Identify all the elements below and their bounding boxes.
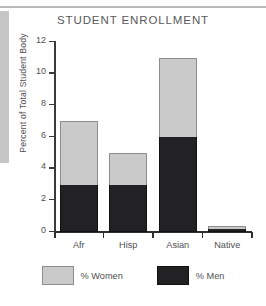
bar-segment-women bbox=[159, 58, 197, 137]
bar-hisp bbox=[109, 153, 147, 232]
legend-entry-women: % Women bbox=[42, 266, 123, 285]
y-axis-tick: 4 bbox=[49, 167, 54, 168]
x-axis-tick bbox=[202, 232, 204, 238]
y-axis-tick-label: 4 bbox=[41, 161, 46, 171]
y-axis-tick-label: 10 bbox=[36, 66, 46, 76]
bar-segment-men bbox=[159, 137, 197, 232]
bar-segment-men bbox=[60, 185, 98, 233]
x-axis-tick bbox=[152, 232, 154, 238]
bar-asian bbox=[159, 58, 197, 232]
bar-afr bbox=[60, 121, 98, 232]
x-axis-tick bbox=[251, 232, 253, 238]
y-axis-tick: 10 bbox=[49, 72, 54, 73]
y-axis-tick: 8 bbox=[49, 104, 54, 105]
y-axis-tick: 2 bbox=[49, 199, 54, 200]
chart-title: STUDENT ENROLLMENT bbox=[0, 14, 266, 26]
y-axis-tick: 6 bbox=[49, 136, 54, 137]
bar-segment-men bbox=[109, 185, 147, 233]
y-axis-title: Percent of Total Student Body bbox=[18, 18, 28, 168]
scan-top-rule bbox=[0, 6, 266, 8]
x-axis-tick bbox=[54, 232, 56, 238]
y-axis-tick-label: 8 bbox=[41, 98, 46, 108]
x-axis-tick bbox=[103, 232, 105, 238]
y-axis-tick: 12 bbox=[49, 41, 54, 42]
y-axis-tick-label: 2 bbox=[41, 193, 46, 203]
bar-segment-women bbox=[60, 121, 98, 184]
legend-swatch-women-icon bbox=[42, 266, 74, 285]
scan-edge-artifact bbox=[0, 11, 9, 163]
legend-entry-men: % Men bbox=[157, 266, 225, 285]
legend-label-men: % Men bbox=[196, 271, 225, 281]
y-axis-tick-label: 0 bbox=[41, 225, 46, 235]
chart-legend: % Women % Men bbox=[0, 266, 266, 285]
legend-label-women: % Women bbox=[81, 271, 123, 281]
plot-area: 024681012 bbox=[54, 42, 252, 232]
bar-segment-men bbox=[208, 229, 246, 232]
y-axis-tick-label: 12 bbox=[36, 35, 46, 45]
legend-swatch-men-icon bbox=[157, 266, 189, 285]
bar-segment-women bbox=[109, 153, 147, 185]
x-axis-label-native: Native bbox=[197, 240, 257, 250]
bar-native bbox=[208, 226, 246, 232]
y-axis-tick-label: 6 bbox=[41, 130, 46, 140]
